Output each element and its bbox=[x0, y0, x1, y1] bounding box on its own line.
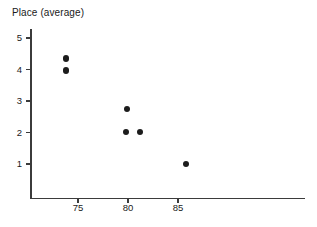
y-tick-mark bbox=[26, 163, 31, 164]
x-axis-line bbox=[30, 198, 305, 200]
x-tick-label: 80 bbox=[117, 203, 139, 213]
y-tick-mark bbox=[26, 132, 31, 133]
data-point bbox=[124, 106, 130, 112]
data-point bbox=[137, 129, 143, 135]
y-axis-line bbox=[30, 29, 32, 199]
y-tick-label: 4 bbox=[8, 65, 22, 75]
data-point bbox=[123, 129, 129, 135]
scatter-chart: Place (average) 54321 758085 bbox=[0, 0, 317, 227]
y-tick-mark bbox=[26, 69, 31, 70]
y-tick-mark bbox=[26, 37, 31, 38]
y-tick-mark bbox=[26, 100, 31, 101]
y-tick-label: 3 bbox=[8, 96, 22, 106]
x-tick-label: 85 bbox=[167, 203, 189, 213]
y-tick-label: 2 bbox=[8, 128, 22, 138]
data-point bbox=[183, 161, 189, 167]
plot-area: 54321 758085 bbox=[0, 0, 317, 227]
data-point bbox=[63, 55, 69, 61]
data-point bbox=[63, 67, 69, 73]
y-tick-label: 1 bbox=[8, 159, 22, 169]
y-tick-label: 5 bbox=[8, 33, 22, 43]
x-tick-label: 75 bbox=[67, 203, 89, 213]
